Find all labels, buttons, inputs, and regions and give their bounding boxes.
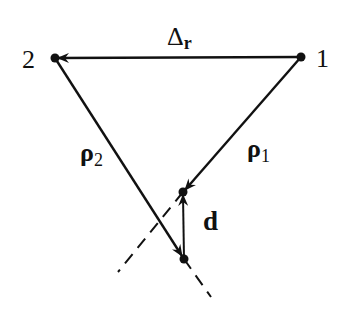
vector-diagram: 1 2 Δr ρ1 ρ2 d — [0, 0, 353, 315]
d-label: d — [203, 206, 218, 236]
rho1-label: ρ1 — [247, 134, 270, 166]
point-1-dot — [297, 53, 306, 62]
point-2-label: 2 — [22, 45, 35, 74]
rho1-subscript: 1 — [261, 146, 270, 166]
dashed-extension-rho2 — [184, 259, 211, 297]
vector-rho2 — [55, 58, 182, 256]
point-2-dot — [51, 54, 60, 63]
delta-r-label: Δr — [167, 22, 192, 53]
rho1-end-dot — [179, 188, 188, 197]
delta-symbol: Δ — [167, 22, 184, 51]
vector-d — [183, 195, 184, 259]
rho2-subscript: 2 — [94, 150, 103, 170]
rho2-end-dot — [180, 255, 189, 264]
rho1-symbol: ρ — [247, 134, 261, 163]
rho2-symbol: ρ — [80, 138, 94, 167]
diagram-svg: 1 2 Δr ρ1 ρ2 d — [0, 0, 353, 315]
delta-subscript: r — [184, 33, 192, 53]
vector-delta-r — [58, 57, 301, 58]
rho2-label: ρ2 — [80, 138, 103, 170]
point-1-label: 1 — [316, 44, 329, 73]
dashed-extension-rho1 — [118, 192, 183, 272]
vector-rho1 — [185, 57, 301, 190]
